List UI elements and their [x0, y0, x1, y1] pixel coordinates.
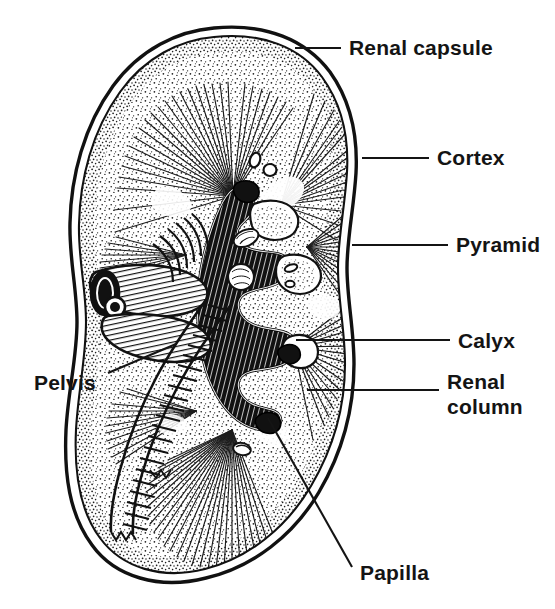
vessel-section-b: [285, 281, 294, 287]
papilla-lower: [255, 413, 280, 434]
label-text-renal-column-line1: Renal: [447, 370, 505, 393]
label-text-pyramid: Pyramid: [456, 233, 540, 256]
kidney-anatomy-figure: Renal capsule Cortex Pyramid Calyx Renal…: [0, 0, 555, 609]
label-text-renal-column-line2: column: [447, 395, 523, 418]
kidney-diagram-svg: Renal capsule Cortex Pyramid Calyx Renal…: [0, 0, 555, 609]
label-text-pelvis: Pelvis: [34, 371, 96, 394]
label-text-calyx: Calyx: [458, 329, 515, 352]
papilla-upper: [234, 181, 260, 203]
vessel-section-upper-b: [264, 164, 277, 176]
label-text-cortex: Cortex: [437, 146, 505, 169]
label-text-papilla: Papilla: [360, 561, 429, 584]
label-text-renal-capsule: Renal capsule: [349, 36, 493, 59]
papilla-calyx: [278, 345, 301, 364]
